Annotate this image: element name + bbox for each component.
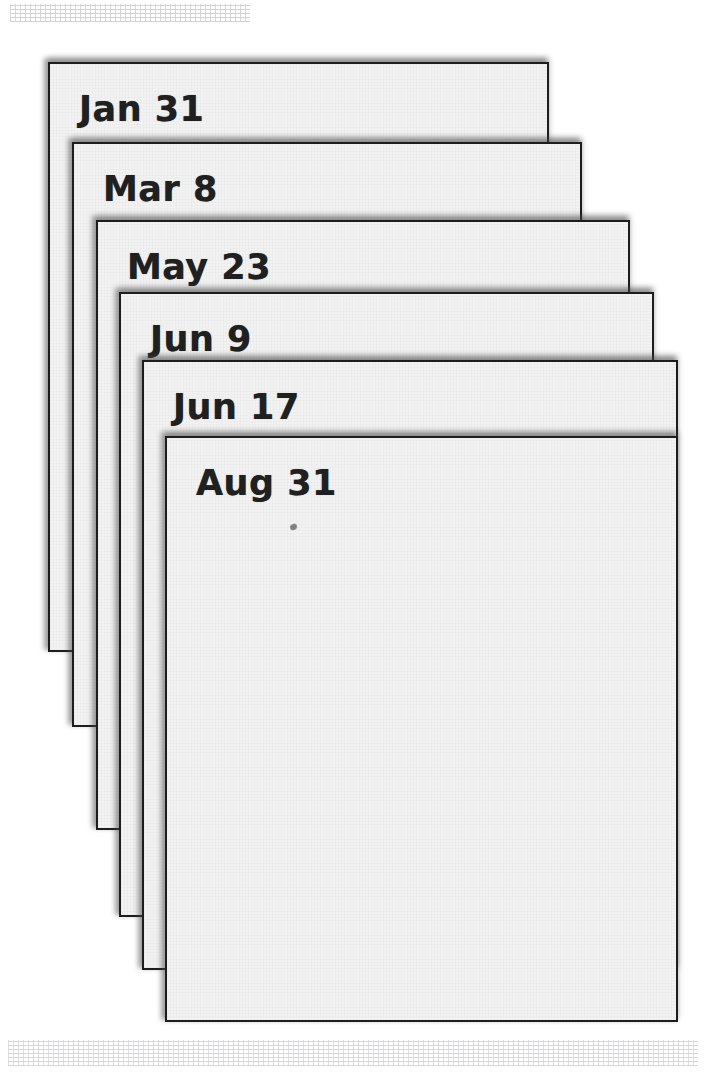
date-card-label: Jan 31 <box>79 90 204 128</box>
scan-artifact-bottom <box>8 1040 698 1066</box>
scan-artifact-top <box>10 4 250 22</box>
date-card-label: Mar 8 <box>103 170 218 208</box>
date-card-label: May 23 <box>127 248 271 286</box>
date-card-aug-31[interactable]: Aug 31 <box>165 436 678 1022</box>
card-stack-canvas: Jan 31 Mar 8 May 23 Jun 9 Jun 17 Aug 31 <box>0 0 715 1081</box>
paper-grain-texture <box>167 438 676 1020</box>
date-card-label: Jun 17 <box>173 388 300 426</box>
date-card-label: Aug 31 <box>196 464 337 502</box>
date-card-label: Jun 9 <box>150 320 252 358</box>
